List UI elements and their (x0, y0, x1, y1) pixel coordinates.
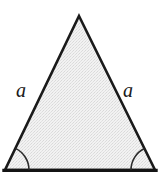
side-label-right: a (123, 80, 133, 100)
triangle-figure: a a (0, 0, 163, 180)
side-label-left: a (16, 80, 26, 100)
